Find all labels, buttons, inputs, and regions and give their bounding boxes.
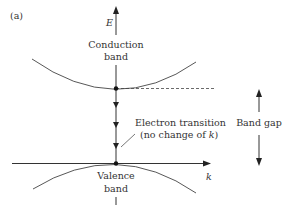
transition-label-prefix: (no change of xyxy=(140,129,209,140)
panel-label: (a) xyxy=(10,10,23,21)
momentum-axis-label: k xyxy=(206,171,212,182)
transition-label-line1: Electron transition xyxy=(135,117,226,128)
conduction-band-label-line2: band xyxy=(104,51,128,62)
energy-axis-label: E xyxy=(105,17,113,28)
valence-band-label-line2: band xyxy=(104,183,128,194)
conduction-band-curve xyxy=(32,59,196,89)
transition-label-suffix: ) xyxy=(215,129,219,140)
conduction-minimum-dot xyxy=(114,86,118,90)
transition-label-line2: (no change of k) xyxy=(140,129,218,140)
conduction-band-label-line1: Conduction xyxy=(88,39,143,50)
band-gap-label: Band gap xyxy=(236,117,282,128)
band-gap-up-arrow-icon xyxy=(256,89,262,97)
valence-band-label-line1: Valence xyxy=(96,170,135,181)
band-gap-diagram: (a) E Conduction band Electron transitio… xyxy=(0,0,290,210)
transition-arrow-icon-2 xyxy=(113,122,119,128)
momentum-axis-arrow-icon xyxy=(203,161,211,167)
energy-axis-arrow-icon xyxy=(113,6,119,14)
transition-arrow-icon-3 xyxy=(113,143,119,149)
band-gap-down-arrow-icon xyxy=(256,158,262,166)
valence-maximum-dot xyxy=(114,161,118,165)
transition-arrow-icon-1 xyxy=(113,102,119,108)
transition-leader-line xyxy=(121,134,135,147)
